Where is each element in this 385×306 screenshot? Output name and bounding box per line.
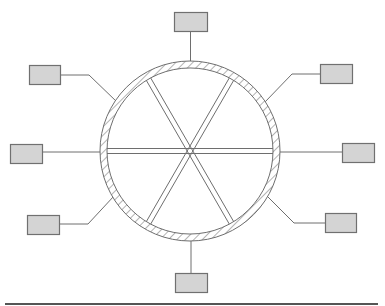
spoke-edge — [146, 78, 229, 222]
connector-upper-left — [60, 75, 117, 102]
wheel-rim — [100, 61, 280, 241]
spoke-edge — [151, 80, 234, 224]
box-bottom — [176, 274, 208, 293]
box-lower-right — [326, 214, 357, 233]
connector-lower-right — [268, 197, 325, 223]
box-right — [343, 144, 375, 163]
spoke-edge — [146, 80, 229, 224]
wheel-diagram — [0, 0, 385, 306]
wheel-spoke — [107, 149, 273, 154]
connector-lower-left — [59, 196, 114, 224]
box-lower-left — [28, 216, 60, 235]
box-left — [11, 145, 43, 164]
wheel-spoke — [146, 78, 233, 224]
connector-upper-right — [265, 74, 320, 102]
wheel — [100, 61, 280, 241]
box-upper-left — [30, 66, 61, 85]
spoke-edge — [151, 78, 234, 222]
wheel-spoke — [146, 78, 233, 224]
box-upper-right — [321, 65, 353, 84]
box-top — [175, 13, 208, 32]
